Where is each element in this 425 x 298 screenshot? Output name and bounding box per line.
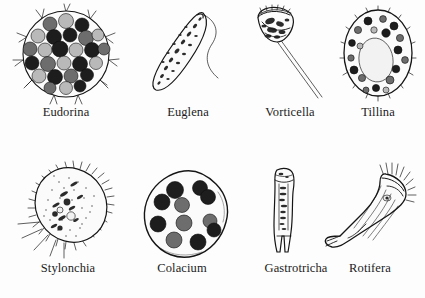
stylonchia-vacuole [67, 212, 75, 220]
caption-tillina: Tillina [338, 106, 418, 119]
specimen-figure-rotifera [318, 160, 418, 260]
specimen-figure-euglena [140, 6, 236, 102]
caption-euglena: Euglena [140, 106, 236, 119]
vorticella-stalk-left [276, 40, 318, 98]
euglena-body [153, 13, 206, 91]
euglena-drawing [153, 13, 218, 91]
specimen-figure-tillina [338, 6, 418, 102]
rotifera-body [325, 174, 406, 247]
specimen-figure-vorticella [248, 4, 332, 104]
gastrotricha-drawing [274, 168, 294, 252]
vorticella-drawing [258, 5, 322, 98]
specimen-figure-stylonchia [14, 160, 122, 260]
caption-eudorina: Eudorina [12, 106, 120, 119]
caption-rotifera: Rotifera [330, 262, 410, 275]
tillina-drawing [340, 6, 416, 101]
stylonchia-body [21, 154, 121, 256]
specimen-figure-colacium [140, 168, 232, 260]
specimen-figure-eudorina [12, 4, 120, 104]
colacium-drawing [144, 171, 227, 258]
stylonchia-drawing [18, 154, 121, 258]
caption-stylonchia: Stylonchia [14, 262, 122, 275]
rotifera-drawing [325, 163, 416, 247]
caption-colacium: Colacium [136, 262, 228, 275]
plate-bottom-note [0, 291, 425, 298]
caption-vorticella: Vorticella [240, 106, 340, 119]
specimen-figure-gastrotricha [255, 166, 315, 262]
eudorina-drawing [13, 4, 119, 104]
vorticella-stalk-right [280, 39, 322, 97]
colacium-outline [144, 171, 227, 258]
